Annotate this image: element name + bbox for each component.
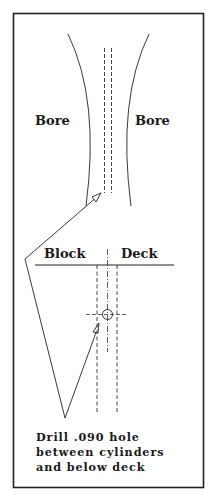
diagram-frame xyxy=(14,14,204,488)
note-line-3: and below deck xyxy=(36,460,145,474)
deck-label: Deck xyxy=(121,246,158,261)
note-line-1: Drill .090 hole xyxy=(36,430,140,444)
arrowhead-top-icon xyxy=(92,193,101,202)
diagram-canvas: Bore Bore Block Deck Drill .090 hole bet… xyxy=(0,0,210,494)
drill-detail-diagram: Bore Bore Block Deck Drill .090 hole bet… xyxy=(0,0,210,494)
bore-left-curve xyxy=(68,34,90,206)
leader-line xyxy=(25,196,98,418)
bore-right-label: Bore xyxy=(135,113,170,128)
block-label: Block xyxy=(44,246,87,261)
bore-left-label: Bore xyxy=(35,113,70,128)
note-line-2: between cylinders xyxy=(36,445,164,459)
arrowhead-bottom-icon xyxy=(93,323,99,333)
